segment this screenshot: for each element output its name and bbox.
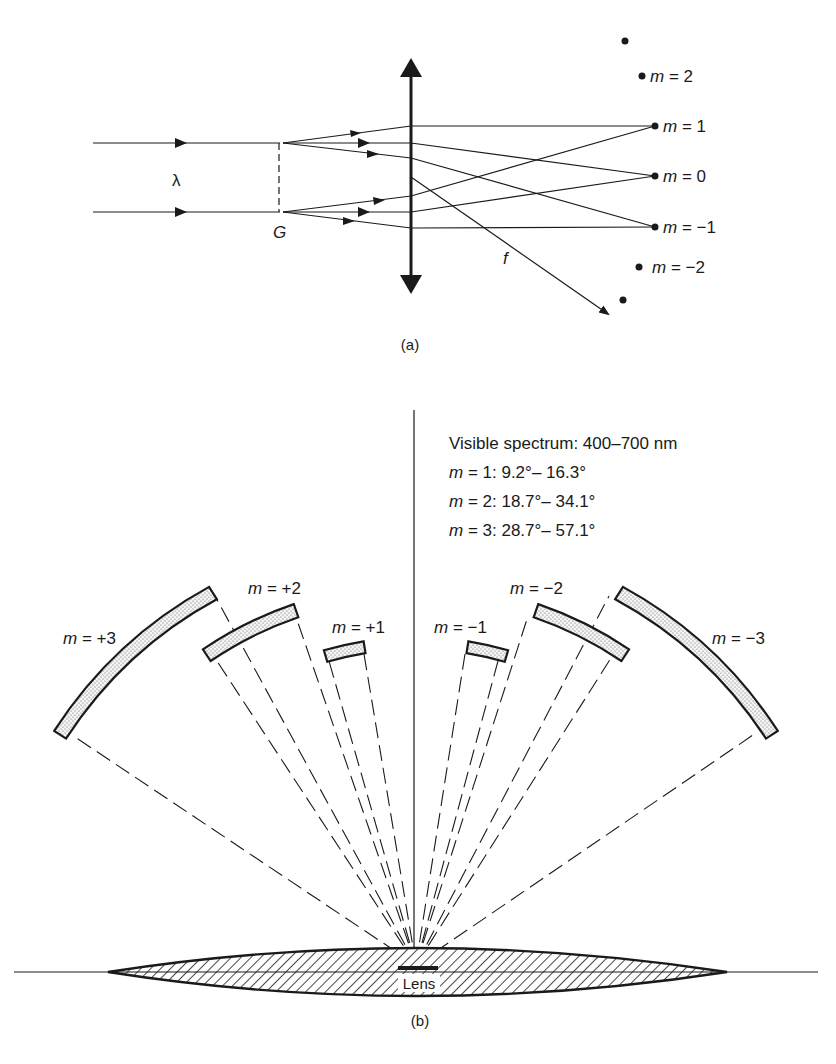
order-dot-m2 xyxy=(639,73,646,80)
band-m+1 xyxy=(324,641,366,662)
order-dot-m-1 xyxy=(652,224,659,231)
spectrum-line-m3: m = 3: 28.7°– 57.1° xyxy=(449,521,595,540)
ray-arrow-icon xyxy=(175,207,187,217)
ray-arrow-icon xyxy=(358,138,370,148)
diffraction-figure: λ G f m = 2 m = 1 m = 0 m = −1 m = −2 (a… xyxy=(0,0,836,1064)
band-m-1 xyxy=(467,641,509,662)
order-dot-m-3 xyxy=(620,297,627,304)
order-label: m = −2 xyxy=(652,258,705,277)
caption-a: (a) xyxy=(401,336,419,353)
ray-arrow-icon xyxy=(175,138,187,148)
ray-arrow-icon xyxy=(343,217,355,225)
order-label: m = −1 xyxy=(663,218,716,237)
lens-label: Lens xyxy=(403,975,436,992)
order-label: m = 2 xyxy=(650,67,693,86)
order-dot-m0 xyxy=(652,173,659,180)
spectrum-title: Visible spectrum: 400–700 nm xyxy=(449,434,677,453)
order-rays xyxy=(72,596,753,965)
order-label: m = 0 xyxy=(663,167,706,186)
lens-arrow-up-icon xyxy=(400,58,422,77)
order-label: m = 1 xyxy=(663,117,706,136)
ray-arrow-icon xyxy=(350,130,361,137)
ray-arrow-icon xyxy=(358,207,370,217)
spectrum-line-m1: m = 1: 9.2°– 16.3° xyxy=(449,463,586,482)
band-m+3 xyxy=(54,587,217,739)
lens: Lens xyxy=(14,948,818,996)
band-m-2 xyxy=(534,604,629,661)
order-dot-m1 xyxy=(652,123,659,130)
order-label-m-3: m = −3 xyxy=(712,629,765,648)
caption-b: (b) xyxy=(411,1012,429,1029)
spectral-bands xyxy=(54,587,778,739)
order-dot-m3 xyxy=(622,38,629,45)
grating-label: G xyxy=(273,223,286,242)
focal-label: f xyxy=(503,249,510,268)
ray-arrow-icon xyxy=(367,150,379,158)
order-label-m+2: m = +2 xyxy=(248,579,301,598)
order-label-m+1: m = +1 xyxy=(332,618,385,637)
band-m+2 xyxy=(203,604,298,661)
ray-arrow-icon xyxy=(373,197,385,205)
lens-arrow-down-icon xyxy=(400,275,422,294)
order-label-m-1: m = −1 xyxy=(434,618,487,637)
band-m-3 xyxy=(615,587,778,739)
order-dot-m-2 xyxy=(636,264,643,271)
spectrum-line-m2: m = 2: 18.7°– 34.1° xyxy=(449,492,595,511)
spectrum-info: Visible spectrum: 400–700 nm m = 1: 9.2°… xyxy=(449,434,677,540)
order-labels-a: m = 2 m = 1 m = 0 m = −1 m = −2 xyxy=(650,67,716,277)
order-label-m+3: m = +3 xyxy=(63,629,116,648)
order-label-m-2: m = −2 xyxy=(510,579,563,598)
wavelength-label: λ xyxy=(172,171,181,190)
